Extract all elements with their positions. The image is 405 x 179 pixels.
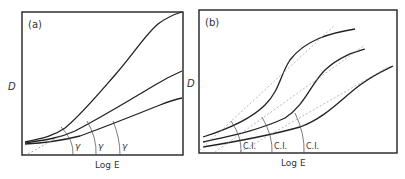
panel-b-dashed-3 <box>240 66 390 152</box>
panel-b-ci-2: C.I. <box>274 142 287 151</box>
panel-a-label: (a) <box>28 19 42 30</box>
panel-b-frame <box>199 10 397 153</box>
panel-b-ci-1: C.I. <box>243 142 256 151</box>
panel-a-ylabel: D <box>8 81 16 92</box>
panel-a-gamma-2: γ <box>98 141 103 151</box>
panel-b-xlabel: Log E <box>281 158 306 168</box>
panel-a-xlabel: Log E <box>95 160 120 170</box>
panel-b-ci-arc-3 <box>295 113 304 153</box>
panel-a-curve-mid <box>25 71 182 143</box>
panel-a-dashed-line <box>28 136 60 154</box>
panel-a-frame <box>22 12 183 155</box>
panel-a-gamma-arc-1 <box>61 127 73 155</box>
panel-a-gamma-3: γ <box>122 141 127 151</box>
panel-a-curve-low <box>25 98 182 144</box>
diagram-canvas <box>0 0 405 179</box>
panel-a-gamma-arc-3 <box>113 121 120 155</box>
panel-a-curve-high <box>25 12 182 142</box>
panel-a-gamma-1: γ <box>75 141 80 151</box>
panel-b-label: (b) <box>205 17 219 28</box>
panel-b-ci-3: C.I. <box>306 142 319 151</box>
panel-b-ylabel: D <box>187 78 195 89</box>
panel-a-gamma-arc-2 <box>87 121 96 155</box>
